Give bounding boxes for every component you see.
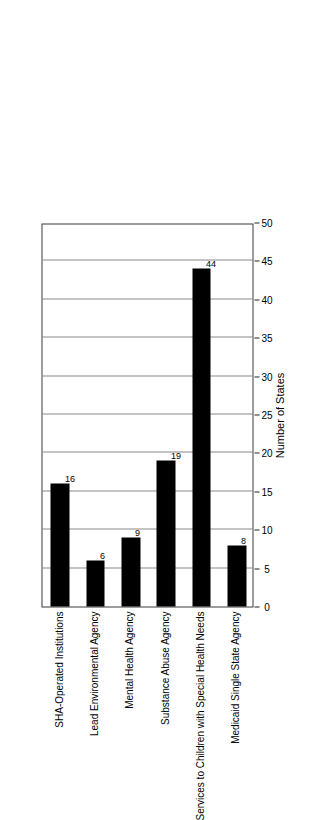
axis-tick	[255, 491, 260, 492]
category-label: Lead Environmental Agency	[90, 611, 100, 736]
category-label: Substance Abuse Agency	[160, 611, 170, 724]
axis-tick-label: 10	[261, 525, 272, 536]
bar[interactable]	[122, 537, 140, 606]
bar[interactable]	[51, 483, 69, 606]
bar-slot: 9	[122, 224, 140, 606]
axis-tick	[255, 299, 260, 300]
bar-slot: 19	[157, 224, 175, 606]
bar-value-label: 44	[206, 260, 216, 269]
axis-tick	[255, 260, 260, 261]
bar-value-label: 19	[171, 452, 181, 461]
axis-tick	[255, 606, 260, 607]
axis-tick-label: 25	[261, 410, 272, 421]
chart-figure: 166919448 05101520253035404550 Number of…	[12, 0, 309, 639]
bar-slot: 8	[228, 224, 246, 606]
bar[interactable]	[192, 268, 210, 606]
bar-value-label: 9	[135, 528, 140, 537]
axis-tick-label: 20	[261, 448, 272, 459]
axis-tick-label: 30	[261, 371, 272, 382]
bar-value-label: 8	[241, 536, 246, 545]
axis-tick-label: 40	[261, 294, 272, 305]
category-label: Services to Children with Special Health…	[196, 611, 206, 820]
bar[interactable]	[86, 560, 104, 606]
bar-slot: 16	[51, 224, 69, 606]
axis-tick-label: 0	[264, 602, 270, 613]
bars-layer: 166919448	[43, 224, 253, 606]
bar[interactable]	[228, 545, 246, 606]
axis-tick	[255, 414, 260, 415]
axis-tick-label: 5	[264, 563, 270, 574]
axis-tick	[255, 337, 260, 338]
plot-area: 166919448	[42, 223, 254, 607]
axis-tick-label: 50	[261, 218, 272, 229]
bar-slot: 6	[86, 224, 104, 606]
value-axis-title: Number of States	[274, 223, 286, 607]
axis-tick-label: 45	[261, 256, 272, 267]
axis-tick	[255, 568, 260, 569]
category-axis-labels: SHA-Operated InstitutionsLead Environmen…	[42, 607, 254, 639]
axis-tick	[255, 376, 260, 377]
axis-tick	[255, 452, 260, 453]
category-label: Mental Health Agency	[125, 611, 135, 708]
bar-value-label: 16	[65, 475, 75, 484]
axis-tick	[255, 222, 260, 223]
bar-value-label: 6	[100, 551, 105, 560]
category-label: Medicaid Single State Agency	[231, 611, 241, 743]
bar-chart: 166919448 05101520253035404550 Number of…	[12, 0, 309, 639]
bar[interactable]	[157, 460, 175, 606]
axis-tick	[255, 529, 260, 530]
bar-slot: 44	[192, 224, 210, 606]
category-label: SHA-Operated Institutions	[54, 611, 64, 727]
axis-tick-label: 15	[261, 486, 272, 497]
axis-tick-label: 35	[261, 333, 272, 344]
